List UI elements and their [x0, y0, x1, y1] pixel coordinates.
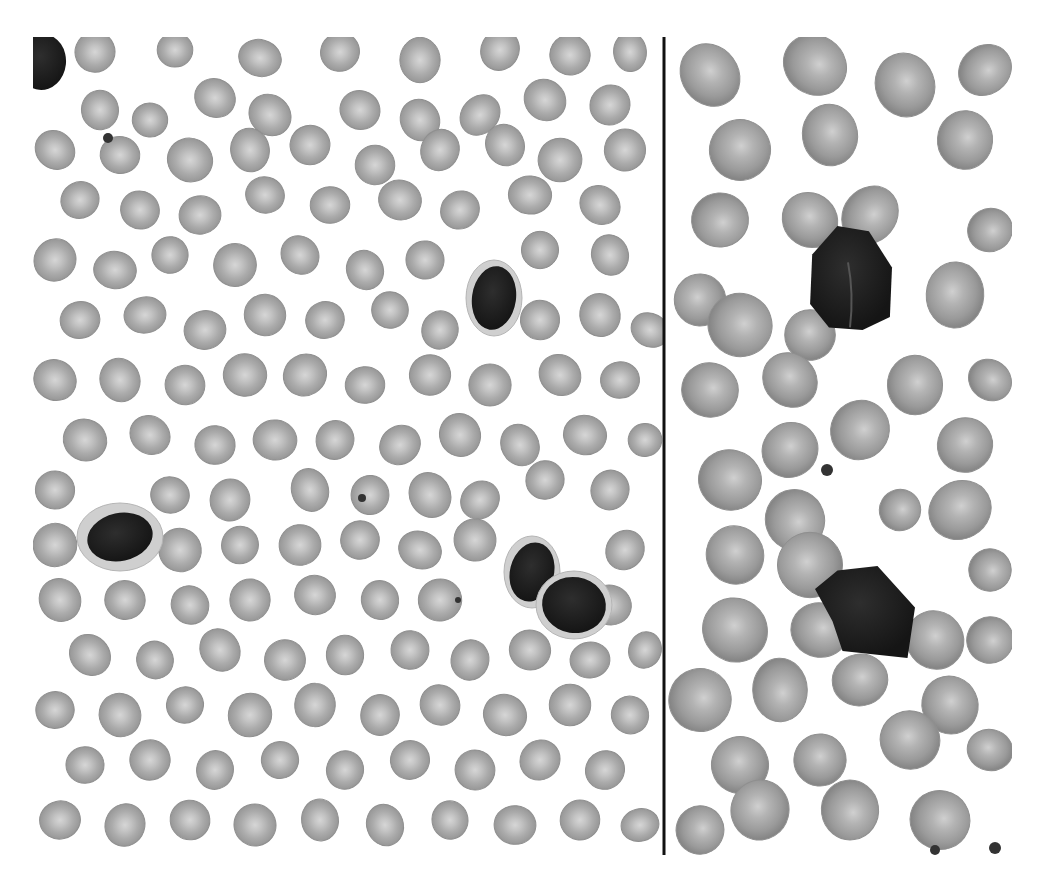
red-blood-cell	[66, 746, 105, 783]
platelet	[455, 597, 461, 603]
red-blood-cell	[400, 37, 440, 82]
red-blood-cell	[469, 364, 511, 406]
platelet	[989, 842, 1001, 854]
red-blood-cell	[887, 355, 943, 416]
platelet	[821, 464, 833, 476]
red-blood-cell	[521, 231, 558, 268]
red-blood-cell	[157, 33, 193, 68]
blood-smear-micrograph	[0, 0, 1044, 877]
red-blood-cell	[35, 470, 76, 509]
platelet	[358, 494, 366, 502]
micrograph-canvas	[0, 0, 1044, 877]
platelet	[930, 845, 940, 855]
red-blood-cell	[549, 683, 592, 726]
platelet	[103, 133, 113, 143]
